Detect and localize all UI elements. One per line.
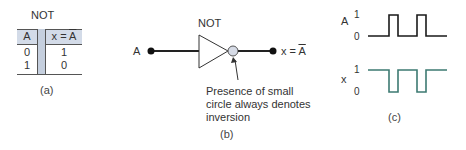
- caption-c: (c): [388, 111, 401, 123]
- waveform-x: [368, 70, 447, 92]
- waveforms: [0, 0, 466, 150]
- waveform-a: [368, 15, 447, 36]
